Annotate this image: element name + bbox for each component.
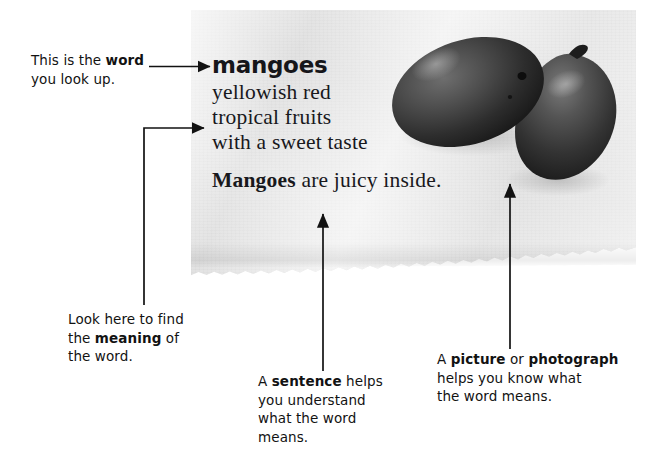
callout-line: Look here to find — [68, 310, 243, 329]
callout-line: helps you know what — [437, 369, 637, 388]
callout-emphasis: word — [106, 52, 144, 68]
callout-sentence: A sentence helpsyou understandwhat the w… — [258, 372, 428, 446]
callout-text: you look up. — [31, 71, 115, 87]
callout-text: of — [161, 330, 179, 346]
dictionary-entry-panel: mangoes yellowish red tropical fruits wi… — [191, 10, 636, 282]
callout-text: A — [258, 373, 272, 389]
callout-text: the word. — [68, 348, 133, 364]
callout-line: what the word — [258, 409, 428, 428]
callout-emphasis: meaning — [95, 330, 162, 346]
callout-text: you understand — [258, 392, 366, 408]
definition-line-1: yellowish red — [212, 80, 512, 105]
callout-line: the meaning of — [68, 329, 243, 348]
callout-line: you look up. — [31, 70, 191, 89]
example-sentence: Mangoes are juicy inside. — [212, 168, 512, 193]
callout-text: helps — [342, 373, 383, 389]
callout-line: the word means. — [437, 387, 637, 406]
torn-edge-shadow — [191, 242, 636, 268]
callout-word: This is the wordyou look up. — [31, 51, 191, 88]
callout-line: means. — [258, 428, 428, 447]
figure-canvas: mangoes yellowish red tropical fruits wi… — [0, 0, 654, 476]
callout-line: This is the word — [31, 51, 191, 70]
callout-emphasis: photograph — [528, 351, 618, 367]
definition-line-3: with a sweet taste — [212, 130, 512, 155]
callout-line: the word. — [68, 347, 243, 366]
callout-line: A sentence helps — [258, 372, 428, 391]
callout-text: A — [437, 351, 451, 367]
definition-line-2: tropical fruits — [212, 105, 512, 130]
callout-text: the — [68, 330, 95, 346]
callout-text: means. — [258, 429, 308, 445]
callout-text: the word means. — [437, 388, 552, 404]
example-sentence-rest: are juicy inside. — [296, 168, 442, 192]
callout-line: you understand — [258, 391, 428, 410]
callout-emphasis: picture — [451, 351, 506, 367]
headword: mangoes — [212, 52, 512, 78]
mango-stem — [518, 72, 527, 80]
dictionary-text-block: mangoes yellowish red tropical fruits wi… — [212, 52, 512, 193]
callout-text: Look here to find — [68, 311, 184, 327]
callout-text: or — [506, 351, 529, 367]
callout-text: what the word — [258, 410, 356, 426]
callout-meaning: Look here to findthe meaning ofthe word. — [68, 310, 243, 366]
callout-picture: A picture or photographhelps you know wh… — [437, 350, 637, 406]
callout-text: helps you know what — [437, 370, 582, 386]
callout-line: A picture or photograph — [437, 350, 637, 369]
example-sentence-bold-word: Mangoes — [212, 168, 296, 192]
callout-emphasis: sentence — [272, 373, 342, 389]
callout-text: This is the — [31, 52, 106, 68]
